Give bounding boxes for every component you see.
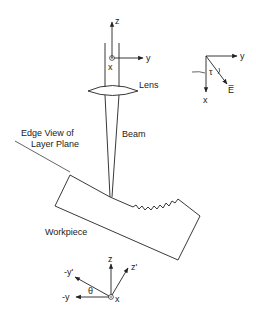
workpiece-label: Workpiece — [45, 227, 87, 237]
z-prime-axis-label: z' — [131, 262, 138, 272]
beam-left-lower — [105, 95, 110, 197]
lens-label: Lens — [139, 80, 159, 90]
layer-plane-label-line1: Edge View of — [21, 128, 74, 138]
e-field-label: E̅ — [228, 85, 234, 95]
polarization-axes: y x E̅ τ — [192, 51, 245, 105]
tau-angle-label: τ — [209, 67, 213, 77]
top-axes: z y x — [108, 16, 151, 72]
z-axis-label: z — [115, 16, 120, 26]
laser-layer-diagram: z y x Lens Beam Edge View of Layer Plane… — [0, 0, 256, 315]
lens-shape — [88, 86, 138, 96]
neg-y-prime-axis-label: -y' — [64, 267, 73, 277]
bottom-x-axis-label: x — [115, 294, 120, 304]
bottom-z-axis-label: z — [108, 254, 113, 264]
x-axis-label: x — [108, 62, 113, 72]
beam-right-lower — [112, 95, 119, 197]
bottom-axes: x z z' -y' -y θ — [62, 254, 138, 304]
theta-angle-label: θ — [88, 286, 93, 296]
neg-y-axis-label: -y — [62, 292, 70, 302]
y-axis-label: y — [146, 53, 151, 63]
pol-y-axis-label: y — [240, 51, 245, 61]
pol-x-axis-label: x — [203, 95, 208, 105]
angle-pointer-left — [192, 72, 205, 73]
beam-label: Beam — [122, 129, 146, 139]
layer-plane-label-line2: Layer Plane — [31, 139, 79, 149]
z-prime-axis-arrow — [112, 268, 128, 295]
workpiece-shape — [55, 175, 200, 260]
